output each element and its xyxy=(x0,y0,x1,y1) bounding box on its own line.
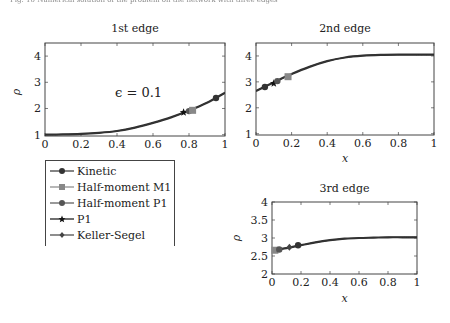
y-axis-label: ρ xyxy=(230,234,243,242)
x-tick-label: 0.2 xyxy=(283,137,301,150)
legend-item-keller-segel: Keller-Segel xyxy=(50,227,145,243)
x-tick-label: 0.6 xyxy=(354,137,372,150)
x-axis-label: x xyxy=(341,292,348,305)
y-tick-label: 3 xyxy=(245,76,252,89)
star-marker-icon xyxy=(50,212,74,226)
circle-marker-icon xyxy=(50,196,74,210)
series-line-p1 xyxy=(256,55,434,91)
x-tick-label: 0.4 xyxy=(318,137,336,150)
plot-2nd-edge: 2nd edge00.20.40.60.811234x xyxy=(245,22,438,165)
series-line-kinetic xyxy=(272,237,417,250)
y-tick-label: 2.5 xyxy=(251,250,269,263)
circle-marker xyxy=(262,84,268,90)
square-marker xyxy=(285,73,292,80)
legend-item-p1: P1 xyxy=(50,211,91,227)
legend: Kinetic Half-moment M1 Half-moment P1 P1… xyxy=(45,160,175,246)
y-tick-label: 4 xyxy=(245,50,252,63)
x-tick-label: 0.2 xyxy=(292,276,310,289)
series-line-keller-segel xyxy=(256,55,434,91)
plot-3rd-edge: 3rd edge00.20.40.60.8122.533.54ρx xyxy=(230,182,421,305)
x-tick-label: 1 xyxy=(414,276,421,289)
plot-1st-edge: 1st edge00.20.40.60.811234ρϵ = 0.1 xyxy=(10,22,229,151)
legend-item-half-moment-p1: Half-moment P1 xyxy=(50,195,167,211)
square-marker xyxy=(189,107,196,114)
circle-marker xyxy=(295,242,301,248)
series-line-half-moment-m1 xyxy=(256,55,434,91)
x-tick-label: 1 xyxy=(431,137,438,150)
x-tick-label: 0.8 xyxy=(390,137,408,150)
square-marker-icon xyxy=(50,180,74,194)
y-tick-label: 3.5 xyxy=(251,214,269,227)
y-tick-label: 3 xyxy=(34,76,41,89)
x-tick-label: 0 xyxy=(269,276,276,289)
series-line-kinetic xyxy=(256,55,434,91)
circle-marker xyxy=(213,95,219,101)
legend-item-half-moment-m1: Half-moment M1 xyxy=(50,179,171,195)
diamond-marker xyxy=(286,244,292,251)
epsilon-annotation: ϵ = 0.1 xyxy=(115,85,162,100)
circle-marker xyxy=(274,78,280,84)
x-tick-label: 0.8 xyxy=(379,276,397,289)
diamond-marker-icon xyxy=(50,228,74,242)
circle-marker-icon xyxy=(50,164,74,178)
plot-title: 3rd edge xyxy=(320,182,370,195)
plot-title: 2nd edge xyxy=(319,22,371,35)
circle-marker xyxy=(276,246,282,252)
x-tick-label: 0.6 xyxy=(350,276,368,289)
plot-title: 1st edge xyxy=(111,22,159,35)
x-tick-label: 0.4 xyxy=(108,138,126,151)
x-tick-label: 0.2 xyxy=(72,138,90,151)
series-line-half-moment-p1 xyxy=(256,55,434,91)
x-axis-label: x xyxy=(342,152,349,165)
y-tick-label: 2 xyxy=(245,102,252,115)
y-tick-label: 2 xyxy=(261,268,268,281)
y-tick-label: 2 xyxy=(34,102,41,115)
x-tick-label: 0.8 xyxy=(180,138,198,151)
y-tick-label: 4 xyxy=(34,50,41,63)
x-tick-label: 0 xyxy=(253,137,260,150)
x-tick-label: 0.6 xyxy=(144,138,162,151)
x-tick-label: 0 xyxy=(42,138,49,151)
y-tick-label: 1 xyxy=(245,128,252,141)
x-tick-label: 0.4 xyxy=(321,276,339,289)
y-tick-label: 1 xyxy=(34,129,41,142)
y-tick-label: 3 xyxy=(261,232,268,245)
y-tick-label: 4 xyxy=(261,196,268,209)
legend-item-kinetic: Kinetic xyxy=(50,163,116,179)
x-tick-label: 1 xyxy=(222,138,229,151)
y-axis-label: ρ xyxy=(10,88,23,96)
